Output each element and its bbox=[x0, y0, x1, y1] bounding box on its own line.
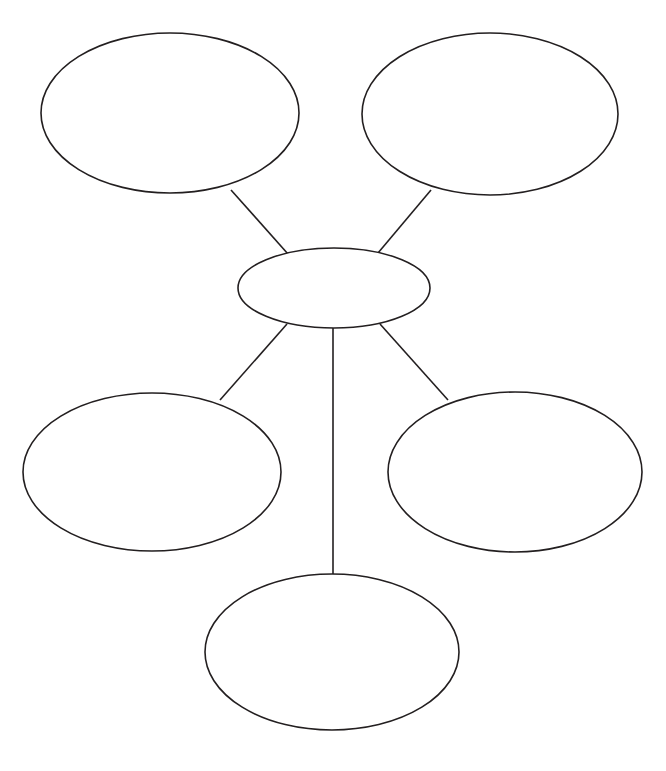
node-bottom[interactable] bbox=[205, 574, 459, 730]
connector-center-to-top-left bbox=[231, 190, 288, 254]
bubble-map-diagram bbox=[0, 0, 666, 771]
connector-center-to-mid-right bbox=[380, 324, 448, 400]
node-center[interactable] bbox=[238, 248, 430, 328]
node-mid-left[interactable] bbox=[23, 393, 281, 551]
bubble-map-canvas bbox=[0, 0, 666, 771]
node-top-left[interactable] bbox=[41, 33, 299, 193]
connector-center-to-top-right bbox=[378, 190, 431, 253]
node-top-right[interactable] bbox=[362, 33, 618, 195]
node-mid-right[interactable] bbox=[388, 392, 642, 552]
connector-center-to-mid-left bbox=[220, 324, 287, 400]
